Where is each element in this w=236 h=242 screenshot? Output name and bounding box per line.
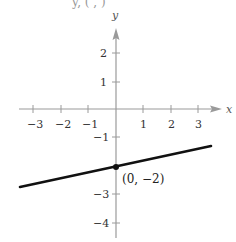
y-tick-label: −1 <box>93 131 109 144</box>
y-tick-label: −4 <box>93 217 109 230</box>
y-tick-label: 1 <box>100 76 107 89</box>
x-tick-label: −3 <box>27 118 43 131</box>
y-axis-label: y <box>111 9 119 22</box>
chart: y, ( , ) x −3 −2 −1 1 2 3 y 2 1 −1 −3 −4 <box>0 0 236 242</box>
x-tick-label: 3 <box>195 118 202 131</box>
x-axis-label: x <box>226 103 233 116</box>
x-axis: x <box>19 103 233 116</box>
cut-off-header-text: y, ( , ) <box>71 0 106 9</box>
y-intercept-point <box>113 164 119 170</box>
x-tick-label: −2 <box>55 118 71 131</box>
y-axis: y <box>111 9 120 238</box>
point-label: (0, −2) <box>122 172 164 186</box>
x-tick-label: 2 <box>168 118 175 131</box>
y-tick-label: −3 <box>93 188 109 201</box>
y-tick-label: 2 <box>100 47 107 60</box>
x-tick-label: 1 <box>140 118 147 131</box>
x-tick-label: −1 <box>82 118 98 131</box>
